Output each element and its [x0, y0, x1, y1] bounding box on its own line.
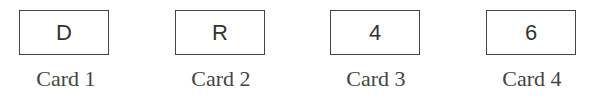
card-1: D	[19, 10, 109, 55]
card-3: 4	[330, 10, 420, 55]
card-4-label: Card 4	[472, 66, 592, 92]
card-face: R	[212, 20, 228, 46]
card-2-label: Card 2	[161, 66, 281, 92]
card-3-label: Card 3	[316, 66, 436, 92]
card-1-label: Card 1	[6, 66, 126, 92]
card-2: R	[175, 10, 265, 55]
card-4: 6	[486, 10, 576, 55]
card-face: 4	[369, 20, 381, 46]
card-face: D	[56, 20, 72, 46]
card-face: 6	[525, 20, 537, 46]
